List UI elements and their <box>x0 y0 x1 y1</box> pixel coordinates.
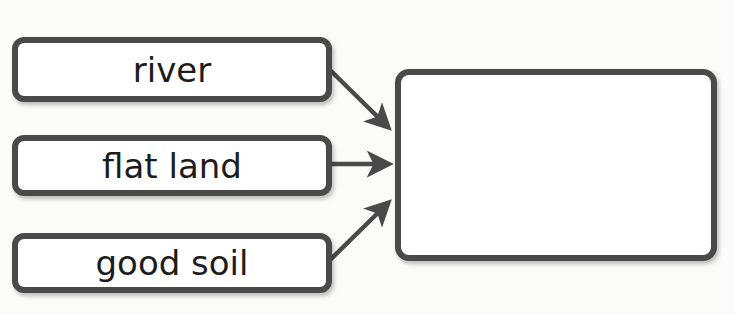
input-box-flat-land: flat land <box>12 135 332 196</box>
arrow-good-soil-to-result <box>330 204 387 260</box>
input-label-good-soil: good soil <box>96 246 249 280</box>
input-box-river: river <box>12 37 332 102</box>
input-label-river: river <box>133 53 211 87</box>
input-label-flat-land: flat land <box>102 149 242 183</box>
input-box-good-soil: good soil <box>12 233 332 293</box>
arrow-river-to-result <box>330 70 387 126</box>
result-box-empty[interactable] <box>395 69 717 261</box>
